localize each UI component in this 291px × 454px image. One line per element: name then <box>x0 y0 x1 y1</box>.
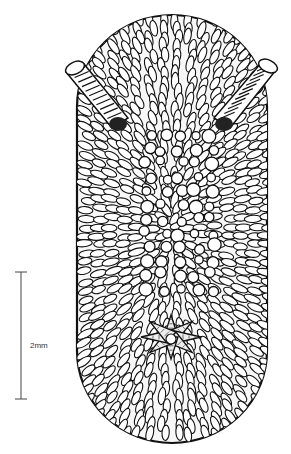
tubercle <box>245 428 260 444</box>
round-tubercle <box>177 217 186 226</box>
round-tubercle <box>195 244 205 254</box>
round-tubercle <box>189 200 203 214</box>
round-tubercle <box>192 132 200 140</box>
round-tubercle <box>171 146 182 157</box>
tubercle <box>75 29 92 46</box>
tubercle <box>260 19 278 36</box>
tubercle <box>101 224 117 231</box>
branchial-plume <box>141 315 201 359</box>
tubercle <box>259 399 277 416</box>
scale-bar-label: 2mm <box>30 341 48 350</box>
tubercle <box>257 232 274 240</box>
round-tubercle <box>141 200 154 213</box>
tubercle <box>232 20 247 37</box>
round-tubercle <box>147 131 157 141</box>
round-tubercle <box>190 144 202 156</box>
round-tubercle <box>161 241 172 252</box>
tubercle <box>261 407 278 423</box>
tubercle <box>262 224 280 231</box>
round-tubercle <box>139 283 152 296</box>
tubercle <box>91 20 107 38</box>
round-tubercle <box>208 287 218 297</box>
tubercle <box>257 392 273 407</box>
round-tubercle <box>175 257 186 268</box>
tubercle <box>245 20 262 37</box>
tubercle <box>207 222 222 230</box>
round-tubercle <box>175 131 185 141</box>
tubercle <box>78 416 95 434</box>
round-tubercle <box>194 173 202 181</box>
nudibranch-illustration <box>0 0 291 454</box>
round-tubercle <box>202 129 216 143</box>
tubercle <box>235 11 250 27</box>
tubercle <box>262 39 280 56</box>
tubercle <box>232 425 248 443</box>
tubercle <box>92 424 108 441</box>
round-tubercle <box>156 199 165 208</box>
round-tubercle <box>163 175 172 184</box>
round-tubercle <box>190 229 199 238</box>
round-tubercle <box>209 146 219 156</box>
round-tubercle <box>158 216 168 226</box>
round-tubercle <box>175 270 187 282</box>
round-tubercle <box>161 129 173 141</box>
round-tubercle <box>204 212 214 222</box>
tubercle <box>261 28 277 44</box>
round-tubercle <box>146 173 156 183</box>
round-tubercle <box>177 285 185 293</box>
tubercle <box>258 14 274 30</box>
round-tubercle <box>144 241 155 252</box>
tubercle <box>106 426 121 443</box>
round-tubercle <box>189 157 199 167</box>
tubercle <box>256 415 274 432</box>
round-tubercle <box>179 157 188 166</box>
round-tubercle <box>156 156 165 165</box>
round-tubercle <box>193 284 205 296</box>
round-tubercle <box>173 241 185 253</box>
round-tubercle <box>163 229 172 238</box>
tubercle <box>225 12 239 28</box>
tubercle <box>247 417 263 433</box>
tubercle <box>90 27 107 45</box>
scale-bar <box>15 272 27 399</box>
tubercle <box>89 418 105 436</box>
tubercle <box>102 13 117 31</box>
round-tubercle <box>207 173 216 182</box>
tubercle <box>245 29 260 44</box>
tubercle <box>249 11 265 27</box>
round-tubercle <box>206 185 219 198</box>
round-tubercle <box>172 173 183 184</box>
round-tubercle <box>139 226 149 236</box>
round-tubercle <box>208 238 221 251</box>
round-tubercle <box>159 287 169 297</box>
round-tubercle <box>194 213 204 223</box>
round-tubercle <box>162 187 173 198</box>
round-tubercle <box>171 229 184 242</box>
tubercle <box>76 427 93 445</box>
round-tubercle <box>188 272 199 283</box>
round-tubercle <box>205 267 216 278</box>
tubercle <box>117 10 131 29</box>
tubercle <box>75 397 92 413</box>
tubercle <box>221 425 237 444</box>
round-tubercle <box>145 142 156 153</box>
tubercle <box>259 425 277 443</box>
round-tubercle <box>205 157 219 171</box>
round-tubercle <box>156 256 168 268</box>
round-tubercle <box>195 256 203 264</box>
tubercle <box>233 232 248 240</box>
round-tubercle <box>140 269 152 281</box>
round-tubercle <box>155 147 165 157</box>
round-tubercle <box>155 267 166 278</box>
tubercle <box>247 410 263 426</box>
round-tubercle <box>187 183 200 196</box>
tubercle <box>78 215 95 223</box>
round-tubercle <box>139 156 150 167</box>
round-tubercle <box>178 200 189 211</box>
tubercle <box>79 410 95 426</box>
tubercle <box>75 39 91 55</box>
round-tubercle <box>141 214 152 225</box>
tubercle <box>106 19 120 35</box>
tubercle <box>262 382 279 397</box>
tubercle <box>90 11 106 28</box>
